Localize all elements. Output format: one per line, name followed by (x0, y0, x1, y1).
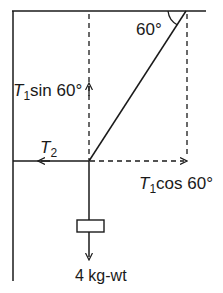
weight-label: 4 kg-wt (75, 267, 127, 284)
angle-arc (168, 11, 178, 25)
t2-label: T2 (40, 138, 57, 160)
angle-label: 60° (136, 20, 162, 39)
t1-sin-label: T1sin 60° (13, 81, 82, 103)
tension-diagram: 60° T1sin 60° T2 T1cos 60° 4 kg-wt (0, 0, 223, 293)
mass-block (77, 220, 104, 232)
t1-cos-label: T1cos 60° (139, 174, 213, 196)
